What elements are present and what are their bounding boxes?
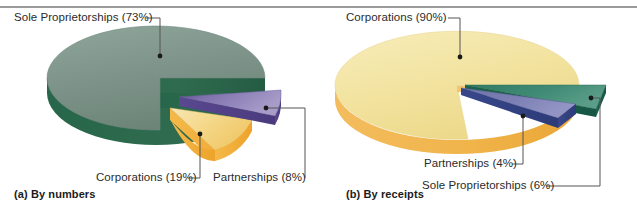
label-sole-proprietorships: Sole Proprietorships (6%) (422, 179, 554, 191)
label-corporations: Corporations (90%) (346, 11, 447, 23)
figure-container: Sole Proprietorships (73%) Corporations … (0, 0, 637, 208)
panel-caption-by-receipts: (b) By receipts (346, 188, 424, 200)
chart-panel-by-receipts: Corporations (90%) Partnerships (4%) Sol… (318, 0, 637, 208)
panel-caption-by-numbers: (a) By numbers (14, 188, 95, 200)
label-corporations: Corporations (19%) (96, 171, 197, 183)
label-partnerships: Partnerships (4%) (424, 157, 517, 169)
chart-panel-by-numbers: Sole Proprietorships (73%) Corporations … (0, 0, 318, 208)
pie-chart-by-receipts (318, 0, 637, 208)
label-partnerships: Partnerships (8%) (213, 171, 306, 183)
label-sole-proprietorships: Sole Proprietorships (73%) (14, 11, 153, 23)
